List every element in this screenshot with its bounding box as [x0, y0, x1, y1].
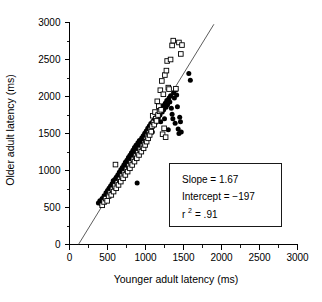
- data-point-filled-circle: [174, 93, 179, 98]
- data-point-filled-circle: [173, 121, 178, 126]
- data-point-open-square: [164, 68, 169, 73]
- data-point-open-square: [149, 129, 154, 134]
- scatter-plot-figure: 050010001500200025003000 050010001500200…: [0, 0, 322, 302]
- y-tick-labels: 050010001500200025003000: [38, 17, 61, 250]
- data-point-filled-circle: [135, 181, 140, 186]
- data-point-open-square: [161, 92, 166, 97]
- x-tick-label: 1500: [172, 252, 195, 263]
- data-point-filled-circle: [186, 71, 191, 76]
- data-point-open-square: [167, 87, 172, 92]
- data-point-open-square: [113, 162, 118, 167]
- data-point-open-square: [168, 57, 173, 62]
- data-point-filled-circle: [179, 130, 184, 135]
- data-point-open-square: [160, 79, 165, 84]
- data-point-open-square: [180, 43, 185, 48]
- slope-label: Slope = 1.67: [182, 174, 239, 185]
- x-tick-labels: 050010001500200025003000: [67, 252, 309, 263]
- x-tick-label: 500: [99, 252, 116, 263]
- y-tick-label: 0: [55, 239, 61, 250]
- data-point-open-square: [179, 52, 184, 57]
- data-point-open-square: [170, 43, 175, 48]
- data-point-filled-circle: [188, 78, 193, 83]
- data-point-open-square: [162, 126, 167, 131]
- r-squared-exponent: 2: [188, 207, 192, 214]
- r-squared-value: = .91: [195, 209, 218, 220]
- x-tick-label: 2500: [248, 252, 271, 263]
- data-point-filled-circle: [170, 116, 175, 121]
- data-point-open-square: [159, 108, 164, 113]
- y-tick-label: 2000: [38, 91, 61, 102]
- data-point-open-square: [171, 38, 176, 43]
- y-tick-label: 2500: [38, 54, 61, 65]
- y-tick-label: 500: [44, 202, 61, 213]
- y-tick-label: 1500: [38, 128, 61, 139]
- chart-svg: 050010001500200025003000 050010001500200…: [0, 0, 322, 302]
- x-tick-label: 0: [67, 252, 73, 263]
- data-point-filled-circle: [175, 104, 180, 109]
- data-point-filled-circle: [167, 100, 172, 105]
- intercept-label: Intercept = −197: [182, 191, 255, 202]
- data-point-open-square: [105, 199, 110, 204]
- x-tick-label: 2000: [210, 252, 233, 263]
- data-point-filled-circle: [178, 119, 183, 124]
- data-point-open-square: [174, 86, 179, 91]
- x-tick-label: 1000: [134, 252, 157, 263]
- x-tick-label: 3000: [286, 252, 309, 263]
- data-point-filled-circle: [162, 116, 167, 121]
- data-point-filled-circle: [170, 112, 175, 117]
- data-point-open-square: [163, 135, 168, 140]
- data-point-open-square: [154, 119, 159, 124]
- statistics-box: Slope = 1.67 Intercept = −197 r 2 = .91: [169, 163, 281, 226]
- data-point-open-square: [163, 73, 168, 78]
- data-point-filled-circle: [177, 115, 182, 120]
- data-point-filled-circle: [169, 106, 174, 111]
- y-tick-label: 3000: [38, 17, 61, 28]
- y-tick-label: 1000: [38, 165, 61, 176]
- x-axis-title: Younger adult latency (ms): [114, 273, 239, 285]
- data-point-open-square: [155, 99, 160, 104]
- y-axis-title: Older adult latency (ms): [4, 74, 16, 185]
